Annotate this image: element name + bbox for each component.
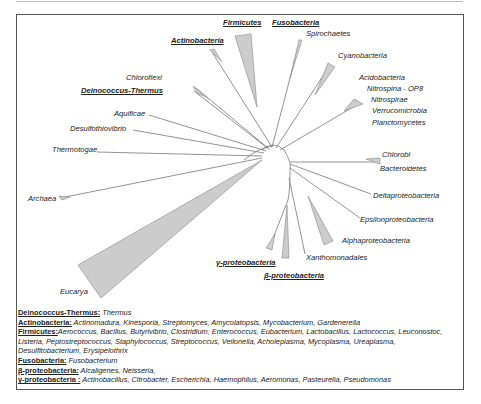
legend-row: Desulfitobacterium, Erysipelothrix	[18, 346, 458, 356]
label-cyanobacteria: Cyanobacteria	[338, 51, 387, 60]
wedge-eucarya	[78, 160, 262, 298]
genus-legend: Deinococcus-Thermus: Thermus Actinobacte…	[18, 308, 458, 385]
label-thermotogae: Thermotogae	[52, 145, 97, 154]
branch-actinobacteria	[212, 52, 272, 147]
label-chlorobi: Chlorobi	[382, 150, 410, 159]
wedge-chlorobi	[366, 158, 380, 164]
branch-desulfothiovibrio	[133, 130, 264, 153]
label-fusobacteria: Fusobacteria	[272, 18, 319, 27]
label-firmicutes: Firmicutes	[223, 18, 261, 27]
branch-deinococcus	[194, 91, 270, 150]
label-aquificae: Aquificae	[114, 109, 145, 118]
legend-row: γ-proteobacteria : Actinobacillus, Citro…	[18, 375, 458, 385]
wedge-spirochaetes	[290, 40, 302, 78]
label-deltaproteobacteria: Deltaproteobacteria	[373, 191, 439, 200]
branch-deltaproteobacteria	[290, 164, 371, 194]
wedge-cyanobacteria	[315, 63, 335, 95]
label-alphaproteobacteria: Alphaproteobacteria	[342, 236, 410, 245]
wedge-alphaproteobacteria	[308, 196, 333, 245]
wedge-gammaproteobacteria	[266, 234, 275, 250]
branch-xanthomonadales	[289, 178, 305, 254]
label-bacteroidetes: Bacteroidetes	[380, 164, 426, 173]
label-spirochaetes: Spirochaetes	[306, 29, 350, 38]
label-betaproteobacteria: β-proteobacteria	[264, 271, 324, 280]
label-archaea: Archaea	[28, 194, 56, 203]
label-deinococcus-thermus: Deinococcus-Thermus	[81, 86, 163, 95]
legend-row: β-proteobacteria: Alcaligenes, Neisseria…	[18, 366, 458, 376]
branch-acidobacteria	[280, 103, 360, 150]
label-gammaproteobacteria: γ-proteobacteria	[216, 258, 276, 267]
wedge-actinobacteria	[210, 49, 222, 62]
label-planctomycetes: Planctomycetes	[372, 118, 426, 127]
label-desulfothiovibrio: Desulfothiovibrio	[70, 124, 126, 133]
legend-row: Firmicutes:Aerococcus, Bacillus, Butyriv…	[18, 327, 458, 337]
label-nitrospirae: Nitrospirae	[371, 95, 408, 104]
legend-row: Fusobacteria: Fusobacterium	[18, 356, 458, 366]
label-acidobacteria: Acidobacteria	[359, 73, 405, 82]
hub-branch	[262, 145, 290, 200]
wedge-archaea	[59, 196, 70, 200]
label-eucarya: Eucarya	[60, 287, 88, 296]
label-xanthomonadales: Xanthomonadales	[306, 253, 367, 262]
wedge-firmicutes	[235, 34, 257, 107]
label-nitrospina: Nitrospina - OP8	[367, 84, 423, 93]
legend-row: Deinococcus-Thermus: Thermus	[18, 308, 458, 318]
branch-epsilonproteobacteria	[290, 168, 360, 218]
wedge-acidobacteria	[344, 99, 363, 111]
label-chloroflexi: Chloroflexi	[126, 73, 162, 82]
branch-thermotogae	[97, 152, 262, 156]
legend-row: Listeria, Peptostreptococcus, Staphyloco…	[18, 337, 458, 347]
label-epsilonproteobacteria: Epsilonproteobacteria	[360, 215, 433, 224]
label-actinobacteria: Actinobacteria	[171, 36, 224, 45]
label-verrucomicrobia: Verrucomicrobia	[372, 106, 427, 115]
legend-row: Actinobacteria: Actinomadura, Kinesporia…	[18, 318, 458, 328]
